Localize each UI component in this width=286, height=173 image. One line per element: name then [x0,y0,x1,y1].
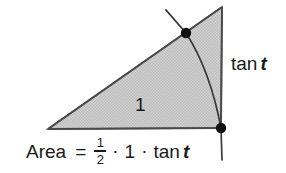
one-half-fraction: 1 2 [94,136,106,166]
tangent-label-variable: t [260,53,266,74]
base-line [48,128,221,129]
fraction-denominator: 2 [95,153,106,166]
point-on-circle-marker [181,28,191,38]
figure-container: 1 tant Area = 1 2 · 1 · tant [0,0,286,173]
area-formula-function: tan [153,142,179,161]
multiplication-dot-1: · [112,141,118,160]
area-formula-variable: t [183,142,189,161]
area-formula-equals: = [75,142,86,161]
area-formula-one: 1 [125,142,136,161]
fraction-numerator: 1 [95,136,106,149]
base-length-label: 1 [135,95,146,114]
point-on-base-marker [216,123,226,133]
multiplication-dot-2: · [141,141,147,160]
tangent-label-function: tan [231,53,257,74]
tangent-leg-line [221,7,222,128]
area-formula: Area = 1 2 · 1 · tant [26,136,189,166]
tangent-length-label: tant [231,54,267,73]
area-formula-word: Area [26,142,66,161]
